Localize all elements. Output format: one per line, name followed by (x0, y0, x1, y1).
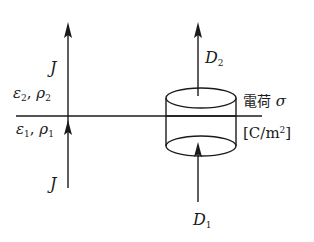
epsilon-2-symbol: ε (13, 84, 21, 102)
sigma-symbol: σ (276, 92, 286, 110)
current-label-upper: J (50, 60, 56, 76)
rho-1-subscript: 1 (48, 129, 54, 139)
region-upper-params: ε2, ρ2 (13, 86, 51, 103)
flux-d2-symbol: D (205, 48, 218, 67)
flux-d1-label: D1 (193, 212, 212, 230)
rho-2-symbol: ρ (36, 84, 45, 102)
surface-charge-text: 電荷 (243, 93, 271, 109)
gaussian-pillbox (166, 88, 236, 156)
epsilon-1-symbol: ε (16, 120, 24, 138)
flux-d2-label: D2 (205, 50, 224, 68)
rho-2-subscript: 2 (45, 93, 51, 103)
region-upper-separator: , (27, 84, 37, 102)
flux-d2-subscript: 2 (218, 58, 224, 68)
region-lower-separator: , (30, 120, 40, 138)
flux-d1-symbol: D (193, 210, 206, 229)
flux-d1-subscript: 1 (206, 220, 212, 230)
unit-open: [C/m (243, 124, 280, 142)
region-lower-params: ε1, ρ1 (16, 122, 54, 139)
surface-charge-unit: [C/m2] (243, 126, 291, 141)
rho-1-symbol: ρ (39, 120, 48, 138)
surface-charge-label: 電荷 σ (243, 94, 286, 109)
current-label-lower: J (50, 176, 56, 192)
unit-close: ] (285, 124, 291, 142)
